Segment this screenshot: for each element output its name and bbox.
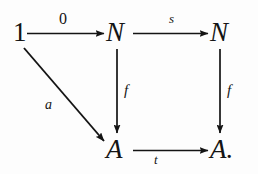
- t-arrow-label: t: [154, 153, 158, 166]
- node-a-bottom-left: A: [106, 136, 123, 163]
- zero-arrow-label: 0: [59, 11, 67, 27]
- successor-arrow-label: s: [169, 12, 174, 25]
- node-a-bottom-right: A.: [210, 136, 233, 163]
- f-right-arrow-label: f: [227, 83, 231, 98]
- a-diagonal-arrow-label: a: [45, 98, 52, 112]
- node-n-top-left: N: [106, 19, 124, 46]
- node-n-top-right: N: [210, 19, 228, 46]
- node-one: 1: [13, 19, 27, 46]
- commutative-diagram-figure: 1 N N A A. 0 s f f a t: [0, 0, 258, 174]
- a-diagonal-arrow-line: [24, 48, 104, 141]
- f-left-arrow-label: f: [124, 83, 128, 98]
